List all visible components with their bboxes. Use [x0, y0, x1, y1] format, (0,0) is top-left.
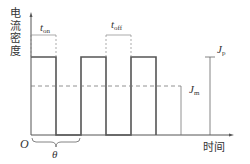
- theta-label: θ: [52, 149, 57, 160]
- t-off-label: toff: [111, 19, 122, 32]
- j-m-label: Jm: [189, 84, 199, 97]
- j-p-label: Jp: [217, 44, 225, 57]
- y-label-char: 度: [10, 46, 22, 59]
- x-axis-arrow-icon: [229, 134, 234, 137]
- pulse-diagram: [0, 0, 250, 164]
- y-axis-arrow-icon: [30, 12, 33, 17]
- origin-label: O: [20, 138, 29, 150]
- pulse-waveform: [31, 57, 156, 135]
- x-axis-label: 时间: [203, 142, 225, 153]
- y-axis-label: 电 流 密 度: [10, 8, 22, 58]
- y-label-char: 电: [10, 8, 22, 21]
- t-on-label: ton: [40, 22, 50, 35]
- theta-brace: [32, 138, 80, 147]
- y-label-char: 密: [10, 33, 22, 46]
